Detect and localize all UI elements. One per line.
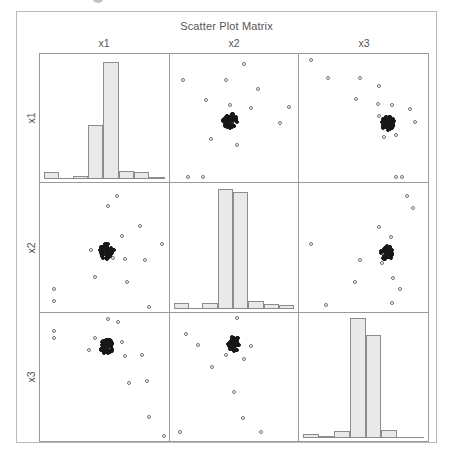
scatter-point (241, 416, 245, 420)
panel-x2-x2[interactable] (170, 183, 300, 312)
histogram-bar (189, 308, 202, 309)
scatter-point (309, 242, 313, 246)
scatter-point (111, 256, 115, 260)
scatter-point (231, 119, 235, 123)
scatter-point (354, 97, 358, 101)
scatter-point (52, 287, 56, 291)
row-label-x1: x1 (21, 53, 41, 183)
histogram-bar (248, 301, 263, 308)
scatter-point (93, 336, 97, 340)
scatter-point (408, 107, 412, 111)
scatter-point (384, 247, 388, 251)
histogram-bar (134, 172, 149, 179)
column-header-row: x1 x2 x3 (39, 37, 429, 51)
histogram-bar (381, 430, 397, 438)
scatter-point (181, 78, 185, 82)
scatter-point (390, 121, 394, 125)
histogram-bar (59, 178, 72, 179)
scatter-point (204, 98, 208, 102)
panel-x1-x1-content (40, 54, 169, 182)
scatter-point (178, 430, 182, 434)
scatter-point (104, 345, 108, 349)
scatter-point (358, 76, 362, 80)
histogram-bar (319, 436, 335, 438)
scatter-point (120, 340, 124, 344)
panel-x3-x3[interactable] (299, 313, 429, 442)
scatter-point (125, 280, 129, 284)
scatter-point (107, 255, 111, 259)
panel-x2-x3[interactable] (299, 183, 429, 312)
scatter-point (235, 316, 239, 320)
scatter-point (186, 175, 190, 179)
panel-x1-x3[interactable] (299, 54, 429, 183)
panel-x1-x2[interactable] (170, 54, 300, 183)
scatter-point (234, 348, 238, 352)
histogram-bar (303, 434, 319, 438)
histogram-bar (279, 305, 294, 309)
scatter-point (224, 353, 228, 357)
scatter-point (232, 124, 236, 128)
scatter-point (102, 247, 106, 251)
scatter-point (390, 253, 394, 257)
scatter-point (411, 206, 415, 210)
scatter-point (106, 204, 110, 208)
scatter-point (259, 430, 263, 434)
page-title: Scatter Plot Matrix (17, 20, 436, 32)
scatter-point (210, 365, 214, 369)
scatter-point (123, 257, 127, 261)
scatter-point (353, 280, 357, 284)
scatter-point (112, 248, 116, 252)
scatter-point (123, 354, 127, 358)
panel-x2-x2-content (170, 183, 299, 311)
scatter-point (162, 434, 166, 438)
scatter-point (249, 106, 253, 110)
scatter-point (242, 62, 246, 66)
scatter-point (234, 115, 238, 119)
figure-frame: Scatter Plot Matrix x1 x2 x3 x1 x2 x3 (16, 11, 437, 443)
histogram-bar (366, 335, 382, 438)
scatter-point (394, 133, 398, 137)
panel-x3-x2-content (170, 313, 299, 441)
scatter-point (120, 234, 124, 238)
scatter-point (390, 301, 394, 305)
scatter-point (398, 287, 402, 291)
scatter-point (256, 87, 260, 91)
scatter-point (138, 224, 142, 228)
scatter-point (232, 390, 236, 394)
histogram-x3 (303, 317, 424, 438)
scatter-point (224, 78, 228, 82)
scatter-point (196, 343, 200, 347)
scatter-point (100, 340, 104, 344)
scatter-point (147, 305, 151, 309)
histogram-bar (73, 176, 88, 180)
scatter-point (388, 127, 392, 131)
panel-x1-x2-content (170, 54, 299, 182)
panel-x3-x1-content (40, 313, 169, 441)
scatter-point (160, 242, 164, 246)
panel-x2-x1[interactable] (40, 183, 170, 312)
scatter-point (324, 303, 328, 307)
histogram-bar (218, 189, 233, 309)
scatter-point (287, 105, 291, 109)
panel-x3-x2[interactable] (170, 313, 300, 442)
panel-x2-x3-content (299, 183, 428, 311)
column-header-x2: x2 (169, 37, 299, 51)
panel-x1-x1[interactable] (40, 54, 170, 183)
scatter-point (358, 258, 362, 262)
scatter-point (209, 137, 213, 141)
scatter-point (309, 58, 313, 62)
scatter-point (413, 120, 417, 124)
histogram-bar (174, 303, 189, 309)
row-label-column: x1 x2 x3 (21, 53, 41, 442)
scatter-point (242, 357, 246, 361)
scatter-point (52, 299, 56, 303)
scatter-point (235, 143, 239, 147)
scatter-point (231, 344, 235, 348)
panel-x3-x3-content (299, 313, 428, 441)
panel-x3-x1[interactable] (40, 313, 170, 442)
histogram-bar (103, 62, 118, 180)
scatter-point (143, 258, 147, 262)
scatter-point (93, 275, 97, 279)
scatter-point (89, 248, 93, 252)
histogram-bar (233, 192, 248, 308)
